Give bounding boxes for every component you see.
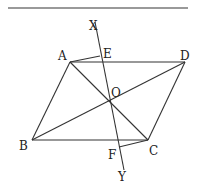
segment-DC [148, 62, 185, 140]
label-point-e: E [103, 47, 112, 61]
geometry-diagram: ABCDOEFXY [0, 0, 203, 192]
segment-BA [32, 62, 70, 140]
label-point-b: B [19, 139, 28, 153]
label-point-a: A [57, 49, 67, 63]
segment-CF [119, 140, 148, 147]
label-point-y: Y [117, 170, 127, 184]
segment-BD [32, 62, 185, 140]
label-point-o: O [111, 86, 121, 100]
label-point-c: C [149, 144, 158, 158]
segment-AE [70, 56, 100, 62]
label-point-d: D [180, 49, 190, 63]
label-point-x: X [89, 19, 98, 33]
label-point-f: F [108, 148, 116, 162]
point-labels: ABCDOEFXY [19, 19, 190, 184]
